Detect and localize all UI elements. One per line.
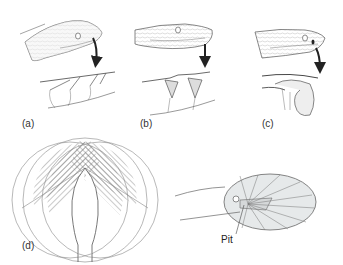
panel-label-b: (b) bbox=[140, 118, 152, 129]
panel-a-snake-head bbox=[20, 21, 102, 62]
panel-c-pit-viper-head bbox=[255, 29, 325, 68]
panel-b-pit-section bbox=[142, 72, 215, 115]
pit-callout-label: Pit bbox=[221, 234, 233, 245]
figure-illustration bbox=[0, 0, 343, 265]
panel-c-pit-section bbox=[262, 74, 318, 115]
panel-label-c: (c) bbox=[262, 118, 274, 129]
panel-d-side-view bbox=[175, 174, 316, 234]
panel-b-snake-head bbox=[135, 24, 212, 62]
panel-a-pit-section bbox=[40, 72, 115, 108]
panel-label-d: (d) bbox=[22, 240, 34, 251]
panel-label-a: (a) bbox=[22, 118, 34, 129]
